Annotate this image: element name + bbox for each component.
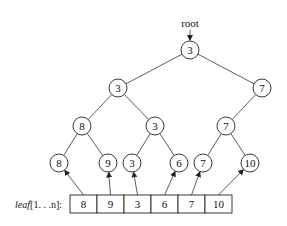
cell-value: 9 xyxy=(108,198,114,210)
tree-edge xyxy=(198,54,254,84)
segment-tree-diagram: root 3378378936710 leaf[1. . .n]: 893671… xyxy=(0,0,287,226)
tree-node: 3 xyxy=(109,79,127,97)
tree-edge xyxy=(208,134,221,156)
leaf-array: 8936710 xyxy=(70,195,232,213)
leaf-array-cell: 3 xyxy=(124,195,151,213)
cell-value: 3 xyxy=(135,198,141,210)
node-value: 9 xyxy=(105,157,111,169)
node-value: 7 xyxy=(259,82,265,94)
leaf-array-label: leaf[1. . .n]: xyxy=(15,199,62,210)
tree-node: 6 xyxy=(170,154,188,172)
leaf-pointer-arrow xyxy=(134,172,138,195)
node-value: 3 xyxy=(129,157,135,169)
cell-value: 10 xyxy=(213,198,225,210)
leaf-pointer-arrow xyxy=(219,170,244,195)
leaf-pointers xyxy=(65,170,244,195)
leaf-array-cell: 8 xyxy=(70,195,97,213)
root-pointer: root xyxy=(181,17,199,40)
tree-node: 7 xyxy=(253,79,271,97)
leaf-array-range: [1. . .n]: xyxy=(30,199,62,210)
tree-edge xyxy=(64,134,77,156)
tree-nodes: 3378378936710 xyxy=(50,41,271,172)
leaf-array-cell: 9 xyxy=(97,195,124,213)
leaf-pointer-arrow xyxy=(165,172,176,195)
leaf-array-cell: 10 xyxy=(205,195,232,213)
tree-edge xyxy=(232,95,256,120)
tree-node: 3 xyxy=(146,117,164,135)
tree-edge xyxy=(160,134,174,156)
node-value: 3 xyxy=(187,44,193,56)
leaf-pointer-arrow xyxy=(192,172,200,195)
root-label: root xyxy=(181,17,199,29)
tree-edge xyxy=(87,133,103,155)
tree-node: 3 xyxy=(123,154,141,172)
tree-node: 8 xyxy=(73,117,91,135)
tree-edge xyxy=(124,94,148,119)
tree-edge xyxy=(231,134,245,156)
leaf-array-name: leaf xyxy=(15,199,31,210)
node-value: 8 xyxy=(56,157,62,169)
leaf-pointer-arrow xyxy=(65,171,84,195)
node-value: 10 xyxy=(245,157,257,169)
node-value: 3 xyxy=(115,82,121,94)
tree-edge xyxy=(126,54,182,84)
tree-node: 7 xyxy=(217,117,235,135)
tree-edge xyxy=(88,95,112,120)
tree-node: 7 xyxy=(194,154,212,172)
cell-value: 8 xyxy=(81,198,87,210)
tree-edges xyxy=(64,54,256,155)
node-value: 6 xyxy=(176,157,182,169)
node-value: 7 xyxy=(223,120,229,132)
tree-node: 3 xyxy=(181,41,199,59)
node-value: 3 xyxy=(152,120,158,132)
leaf-array-cell: 7 xyxy=(178,195,205,213)
cell-value: 6 xyxy=(162,198,168,210)
leaf-pointer-arrow xyxy=(109,172,111,195)
tree-edge xyxy=(137,134,150,156)
tree-node: 9 xyxy=(99,154,117,172)
cell-value: 7 xyxy=(189,198,195,210)
node-value: 7 xyxy=(200,157,206,169)
tree-node: 10 xyxy=(241,154,259,172)
node-value: 8 xyxy=(79,120,85,132)
leaf-array-cell: 6 xyxy=(151,195,178,213)
tree-node: 8 xyxy=(50,154,68,172)
